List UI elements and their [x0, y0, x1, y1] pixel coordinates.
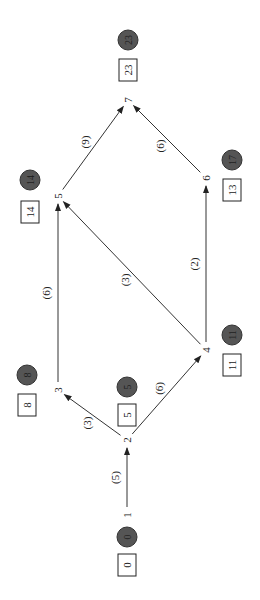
edge-weight-5-7: (9) [79, 135, 92, 148]
node-box-value-5: 14 [24, 206, 36, 218]
node-7: 72323 [118, 30, 138, 103]
node-label-5: 5 [52, 193, 64, 199]
edge-weight-4-5: (3) [119, 273, 132, 286]
node-box-value-3: 8 [21, 402, 33, 408]
node-1: 100 [117, 512, 137, 576]
edge-weight-2-3: (3) [81, 416, 94, 429]
node-5: 51414 [20, 170, 64, 223]
node-circle-value-2: 5 [122, 385, 133, 390]
node-label-6: 6 [200, 175, 212, 181]
edge-2-4 [132, 356, 200, 434]
node-circle-value-1: 0 [122, 535, 133, 540]
edge-weight-4-6: (2) [188, 257, 201, 270]
node-box-value-2: 5 [121, 412, 133, 418]
edge-4-5 [64, 202, 201, 344]
edge-5-7 [63, 106, 124, 189]
edge-weight-1-2: (5) [109, 471, 122, 484]
node-circle-value-6: 17 [227, 155, 238, 165]
node-box-value-1: 0 [121, 562, 133, 568]
node-box-value-4: 11 [226, 360, 238, 371]
node-label-7: 7 [122, 97, 134, 103]
edge-weight-3-5: (6) [40, 286, 53, 299]
node-circle-value-5: 14 [25, 175, 36, 185]
node-2: 255 [117, 377, 137, 443]
edge-weight-2-4: (6) [153, 382, 166, 395]
node-3: 388 [17, 365, 64, 416]
node-label-2: 2 [121, 437, 133, 443]
node-box-value-7: 23 [122, 64, 134, 76]
edge-6-7 [134, 106, 201, 173]
node-circle-value-7: 23 [123, 35, 134, 45]
node-circle-value-4: 11 [227, 330, 238, 340]
network-diagram: (5)(3)(6)(6)(3)(2)(9)(6) 100255388411115… [0, 0, 260, 600]
node-circle-value-3: 8 [22, 373, 33, 378]
edge-weight-6-7: (6) [154, 139, 167, 152]
node-label-4: 4 [200, 347, 212, 353]
node-box-value-6: 13 [226, 184, 238, 196]
node-label-3: 3 [52, 387, 64, 393]
node-label-1: 1 [121, 512, 133, 518]
